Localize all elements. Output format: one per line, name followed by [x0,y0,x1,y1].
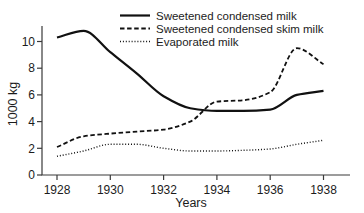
x-tick-label: 1934 [204,183,231,197]
legend-item: Evaporated milk [120,36,239,48]
x-tick-label: 1936 [257,183,284,197]
x-tick-label: 1928 [44,183,71,197]
x-tick-label: 1938 [310,183,337,197]
axes: 0246810192819301932193419361938 [22,26,350,197]
legend-label: Sweetened condensed milk [156,10,297,22]
y-tick-label: 2 [28,142,35,156]
y-tick-label: 8 [28,61,35,75]
y-axis-title: 1000 kg [6,82,20,127]
series-line-2 [57,140,324,156]
y-tick-label: 6 [28,88,35,102]
x-tick-label: 1930 [97,183,124,197]
series-line-1 [57,48,324,147]
legend-item: Sweetened condensed skim milk [120,23,324,35]
legend-label: Sweetened condensed skim milk [156,23,324,35]
series-lines [57,31,324,156]
milk-production-line-chart: 0246810192819301932193419361938 Sweetene… [0,0,364,213]
y-tick-label: 10 [22,35,36,49]
axis-lines [42,26,350,175]
y-tick-label: 0 [28,168,35,182]
y-tick-label: 4 [28,115,35,129]
legend: Sweetened condensed milkSweetened conden… [120,10,324,48]
chart-canvas: 0246810192819301932193419361938 Sweetene… [0,0,364,213]
legend-item: Sweetened condensed milk [120,10,297,22]
x-tick-label: 1932 [150,183,177,197]
x-axis-title: Years [175,196,207,210]
legend-label: Evaporated milk [156,36,239,48]
